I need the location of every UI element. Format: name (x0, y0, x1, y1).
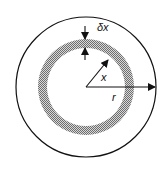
label-x: x (100, 71, 107, 83)
label-delta-x: δx (97, 21, 109, 33)
label-r: r (112, 91, 117, 103)
annulus-diagram: δx x r (0, 0, 166, 177)
